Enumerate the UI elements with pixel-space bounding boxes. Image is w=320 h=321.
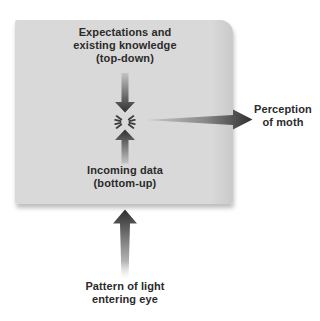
top-down-arrow-icon (115, 73, 135, 113)
label-line: Expectations and (45, 26, 205, 39)
label-line: (bottom-up) (45, 177, 205, 190)
bottom-up-arrow-icon (115, 130, 135, 164)
label-line: existing knowledge (45, 39, 205, 52)
label-line: (top-down) (45, 52, 205, 65)
label-pattern-of-light: Pattern of light entering eye (45, 280, 205, 306)
label-expectations-top-down: Expectations and existing knowledge (top… (45, 26, 205, 65)
label-perception-of-moth: Perception of moth (248, 103, 318, 129)
label-incoming-data-bottom-up: Incoming data (bottom-up) (45, 164, 205, 190)
input-arrow-icon (113, 210, 137, 280)
label-line: Incoming data (45, 164, 205, 177)
perception-arrow-icon (145, 110, 253, 130)
label-line: entering eye (45, 293, 205, 306)
collision-starburst-icon (115, 116, 135, 128)
perception-diagram: { "colors": { "background": "#ffffff", "… (0, 0, 320, 321)
label-line: Perception (248, 103, 318, 116)
diagram-stage: Expectations and existing knowledge (top… (0, 0, 320, 321)
label-line: of moth (248, 116, 318, 129)
label-line: Pattern of light (45, 280, 205, 293)
